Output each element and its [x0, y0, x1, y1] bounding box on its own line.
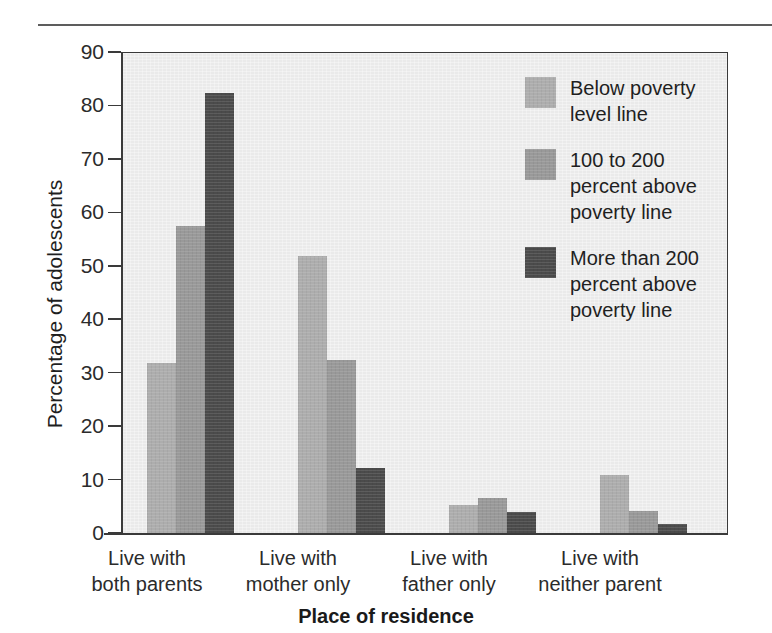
y-axis-tick	[108, 372, 121, 374]
y-axis-tick-label: 20	[60, 415, 104, 436]
bar	[327, 360, 356, 534]
y-axis-tick	[108, 212, 121, 214]
bar	[176, 226, 205, 534]
y-axis-tick	[108, 479, 121, 481]
y-axis-tick	[108, 318, 121, 320]
legend-item: 100 to 200 percent above poverty line	[525, 147, 740, 225]
legend-item-label: Below poverty level line	[570, 75, 696, 127]
y-axis-tick-label: 80	[60, 94, 104, 115]
y-axis-tick-label: 90	[60, 41, 104, 62]
bar	[298, 256, 327, 534]
y-axis-tick	[108, 105, 121, 107]
bar	[205, 93, 234, 534]
chart-legend: Below poverty level line 100 to 200 perc…	[525, 75, 740, 343]
y-axis-tick-label: 70	[60, 148, 104, 169]
x-axis-title: Place of residence	[0, 605, 772, 628]
y-axis-tick	[108, 158, 121, 160]
y-axis-tick	[108, 51, 121, 53]
y-axis-line	[121, 52, 123, 534]
y-axis-tick	[108, 425, 121, 427]
top-horizontal-rule	[38, 24, 772, 26]
legend-item: More than 200 percent above poverty line	[525, 245, 740, 323]
y-axis-tick-label: 60	[60, 201, 104, 222]
x-axis-line	[104, 533, 728, 535]
y-axis-tick	[108, 265, 121, 267]
x-category-line1: Live with	[561, 547, 639, 569]
y-axis-tick-label: 40	[60, 308, 104, 329]
y-axis-tick-label: 30	[60, 362, 104, 383]
legend-swatch-icon	[525, 149, 556, 180]
x-category-line2: neither parent	[510, 571, 690, 597]
legend-swatch-icon	[525, 77, 556, 108]
bar	[600, 475, 629, 534]
bar	[478, 498, 507, 534]
x-category-line1: Live with	[108, 547, 186, 569]
bar	[147, 363, 176, 534]
x-axis-category-label: Live with neither parent	[510, 545, 690, 597]
y-axis-tick-label: 0	[60, 522, 104, 543]
x-category-line1: Live with	[259, 547, 337, 569]
bar	[356, 468, 385, 534]
bar	[507, 512, 536, 534]
legend-item-label: More than 200 percent above poverty line	[570, 245, 699, 323]
legend-item-label: 100 to 200 percent above poverty line	[570, 147, 697, 225]
legend-item: Below poverty level line	[525, 75, 740, 127]
plot-area: Below poverty level line 100 to 200 perc…	[122, 52, 728, 534]
bar	[449, 505, 478, 534]
figure: Percentage of adolescents 01020304050607…	[0, 0, 772, 633]
legend-swatch-icon	[525, 247, 556, 278]
y-axis-tick-label: 10	[60, 469, 104, 490]
y-axis-tick-label: 50	[60, 255, 104, 276]
x-category-line1: Live with	[410, 547, 488, 569]
bar	[629, 511, 658, 534]
